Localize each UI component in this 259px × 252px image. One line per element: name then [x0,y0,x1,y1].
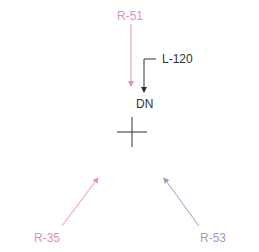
r35-arrow [62,178,98,226]
l120-label: L-120 [162,53,193,65]
r35-label: R-35 [34,232,60,244]
r53-label: R-53 [200,232,226,244]
dn-label: DN [136,98,153,110]
r51-label: R-51 [117,10,143,22]
diagram-canvas [0,0,259,252]
l120-arrow [144,59,156,92]
r53-arrow [164,178,199,226]
